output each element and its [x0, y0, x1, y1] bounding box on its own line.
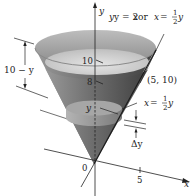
origin-label: 0	[82, 163, 87, 173]
tick-label-8: 8	[87, 77, 92, 87]
slice-y-label: y	[85, 103, 92, 113]
cone-diagram: y yy = 2 x or x = 1 2 y 10 8 (5, 10) y x…	[0, 0, 192, 196]
y-axis-label: y	[98, 6, 105, 16]
eq-y: y	[177, 12, 184, 22]
tick-label-5: 5	[137, 175, 142, 185]
slice-frac-den: 2	[163, 104, 167, 112]
delta-line-top	[124, 120, 146, 124]
slice-frac-num: 1	[163, 95, 167, 103]
slice-eq-equals: =	[150, 98, 158, 108]
slice-top	[66, 101, 122, 116]
delta-arrowhead-up	[135, 128, 138, 133]
y-axis-arrow	[93, 2, 97, 8]
eq-frac-den: 2	[173, 18, 177, 26]
eq-frac-num: 1	[173, 9, 177, 17]
delta-arrowhead-down	[135, 117, 138, 122]
point-label: (5, 10)	[147, 75, 177, 85]
eq-x2: x	[154, 12, 159, 22]
slice-eq-x: x	[144, 98, 149, 108]
dim-bottom-line	[16, 86, 48, 98]
eq-equals: =	[160, 12, 168, 22]
dim-top-line	[14, 38, 34, 44]
slice-eq-y: y	[167, 98, 174, 108]
delta-y-label: Δy	[131, 139, 143, 149]
tick-label-10: 10	[82, 56, 93, 66]
x-axis-label: x	[184, 179, 189, 189]
eq-or: or	[138, 12, 148, 22]
x-axis	[44, 149, 186, 181]
height-label: 10 − y	[4, 65, 35, 75]
delta-line-bottom	[124, 125, 146, 129]
dim-arrowhead-bottom	[23, 84, 26, 89]
